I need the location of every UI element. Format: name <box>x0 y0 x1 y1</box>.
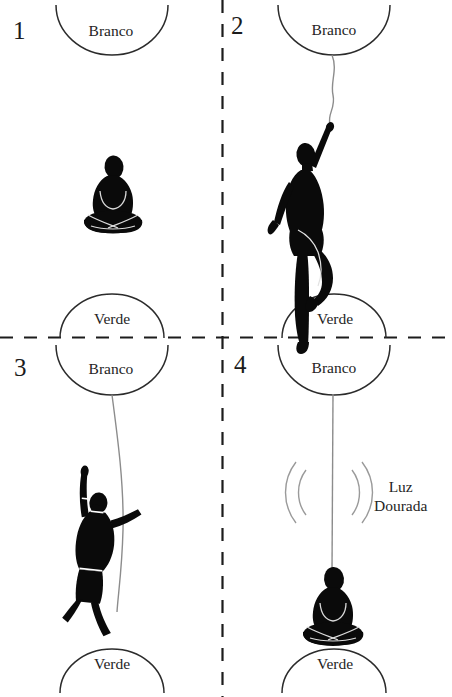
panel-1 <box>56 5 168 338</box>
panel-3-verde-arc <box>60 649 164 693</box>
wave-right-outer <box>362 462 373 523</box>
wave-left-outer <box>286 462 297 523</box>
wave-right-inner <box>352 470 360 515</box>
panel-3-branco-arc <box>56 345 168 395</box>
luz-dourada-waves-icon <box>286 462 373 523</box>
panel-3-inverted-figure-icon <box>61 465 146 639</box>
panel-2-branco-arc <box>278 5 390 55</box>
panel-3-cord <box>112 395 123 612</box>
wave-left-inner <box>299 470 307 515</box>
panel-4-cord <box>332 394 333 573</box>
panel-4-seated-figure-icon <box>303 566 363 646</box>
diagram-canvas <box>0 0 452 697</box>
panel-4 <box>278 345 390 693</box>
panel-1-seated-figure-icon <box>84 155 142 234</box>
panel-2-cord <box>329 55 334 124</box>
panel-4-verde-arc <box>282 649 386 693</box>
panel-2-standing-figure-icon <box>268 121 336 354</box>
panel-4-branco-arc <box>278 345 390 395</box>
panel-3 <box>56 345 168 693</box>
panel-1-verde-arc <box>60 294 164 338</box>
panel-1-branco-arc <box>56 5 168 55</box>
panel-2 <box>268 5 390 354</box>
